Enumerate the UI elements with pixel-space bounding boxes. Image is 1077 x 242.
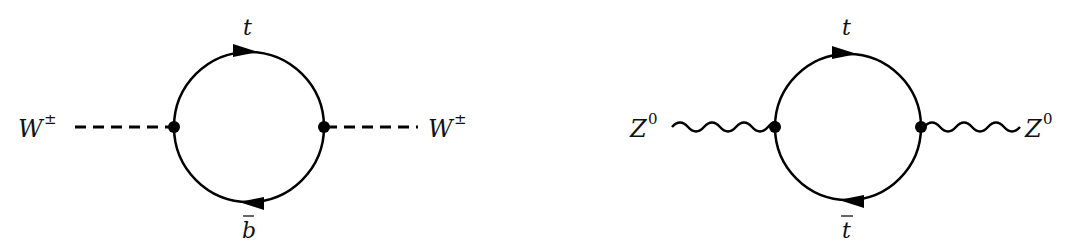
z-right-wavy-line (924, 123, 1020, 132)
w-right-superscript: ± (454, 110, 467, 128)
w-left-label: W (18, 115, 45, 143)
w-right-label: W (428, 115, 455, 143)
top-quark-label: t (243, 15, 252, 40)
antibottom-label: b (242, 218, 256, 242)
antitop-label: t (842, 218, 851, 242)
z-right-label: Z (1024, 115, 1043, 143)
vertex-left (769, 121, 781, 133)
arrow-right-icon (233, 44, 258, 57)
arrow-left-icon (239, 197, 264, 210)
feynman-diagrams: W ± W ± t b Z 0 Z 0 t t (0, 0, 1077, 242)
arrow-right-icon (832, 46, 857, 59)
z-right-superscript: 0 (1043, 110, 1053, 128)
z-left-superscript: 0 (648, 110, 658, 128)
vertex-left (168, 121, 180, 133)
w-left-superscript: ± (44, 110, 57, 128)
w-self-energy-diagram: W ± W ± t b (18, 15, 467, 242)
top-quark-label: t (842, 15, 851, 40)
fermion-loop (174, 52, 324, 202)
z-self-energy-diagram: Z 0 Z 0 t t (629, 15, 1053, 242)
top-loop (775, 54, 921, 200)
vertex-right (915, 121, 927, 133)
arrow-left-icon (839, 195, 864, 208)
vertex-right (318, 121, 330, 133)
z-left-label: Z (629, 115, 648, 143)
z-left-wavy-line (672, 123, 776, 132)
